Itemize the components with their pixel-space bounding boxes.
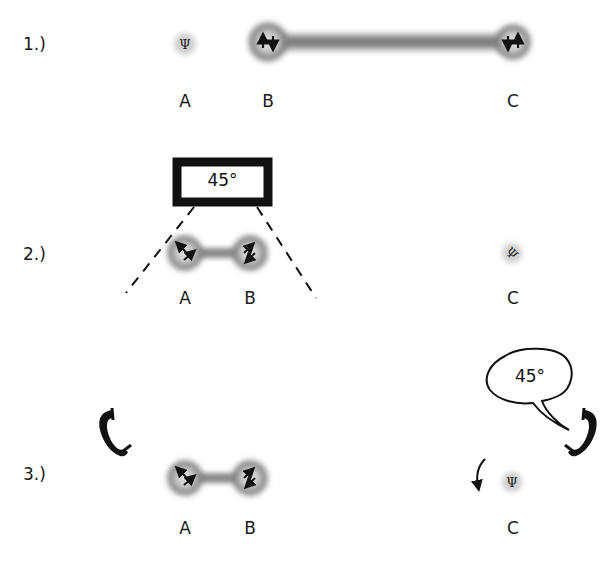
node-label-c: C	[498, 518, 528, 538]
phone-left-icon	[99, 408, 131, 456]
row3-particle-c: Ψ	[500, 470, 524, 494]
row-label-3: 3.)	[23, 464, 46, 484]
node-label-a: A	[170, 518, 200, 538]
node-label-b: B	[253, 91, 283, 111]
node-label-c: C	[498, 288, 528, 308]
row2-entangled-pair-ab	[165, 233, 270, 273]
speech-bubble-text: 45°	[505, 366, 555, 386]
node-label-a: A	[170, 288, 200, 308]
row1-particle-a: Ψ	[172, 31, 198, 57]
speech-bubble	[487, 349, 572, 430]
row2-particle-c: Ψ	[500, 241, 524, 265]
psi-icon: Ψ	[506, 475, 517, 490]
measurement-angle-text: 45°	[181, 170, 264, 190]
rotate-arrow-icon	[477, 459, 485, 486]
row3-entangled-pair-ab	[165, 458, 270, 498]
row1-group: Ψ	[172, 20, 533, 64]
row-label-2: 2.)	[23, 244, 46, 264]
row1-entangled-pair-bc	[246, 20, 533, 64]
node-label-b: B	[235, 518, 265, 538]
psi-icon: Ψ	[179, 37, 190, 52]
node-label-c: C	[498, 91, 528, 111]
row-label-1: 1.)	[23, 34, 46, 54]
node-label-b: B	[235, 288, 265, 308]
phone-right-icon	[565, 408, 597, 456]
diagram-canvas: Ψ	[0, 0, 606, 572]
node-label-a: A	[170, 91, 200, 111]
